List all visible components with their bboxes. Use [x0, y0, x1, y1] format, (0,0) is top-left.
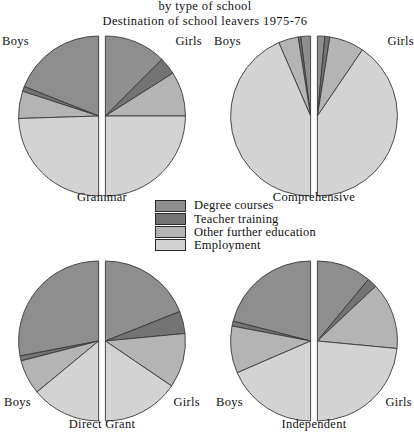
legend-swatch-degree-courses [155, 200, 186, 212]
label-independent-girls: Girls [386, 395, 413, 410]
pie-chart-comprehensive: Boys Girls Comprehensive [214, 30, 414, 206]
pie-slice [105, 116, 185, 196]
legend-swatch-other-further-education [155, 226, 186, 238]
label-grammar-boys: Boys [2, 34, 29, 49]
page-title: Destination of school leavers 1975-76 [0, 14, 410, 29]
legend-item-employment: Employment [155, 239, 305, 252]
pie-chart-direct-grant: Boys Girls Direct Grant [2, 255, 202, 431]
label-independent-boys: Boys [216, 395, 243, 410]
label-comprehensive-girls: Girls [388, 34, 414, 49]
label-direct-grant-girls: Girls [174, 395, 201, 410]
pie-chart-independent: Boys Girls Independent [214, 255, 414, 431]
legend-item-teacher-training: Teacher training [155, 212, 305, 225]
pie-slice [19, 116, 99, 196]
label-grammar-girls: Girls [176, 34, 203, 49]
pie-slice [19, 261, 99, 356]
subtitle-by-type-of-school: by type of school [0, 0, 410, 14]
label-direct-grant-boys: Boys [4, 395, 31, 410]
legend-item-other-further-education: Other further education [155, 225, 305, 238]
legend-label-other-further-education: Other further education [194, 226, 316, 239]
legend-swatch-employment [155, 239, 186, 251]
legend-swatch-teacher-training [155, 213, 186, 225]
legend-label-employment: Employment [194, 239, 261, 252]
pie-direct-grant-svg [2, 255, 202, 431]
legend: Degree courses Teacher training Other fu… [155, 199, 305, 252]
pie-independent-svg [214, 255, 414, 431]
legend-label-degree-courses: Degree courses [194, 199, 274, 212]
legend-item-degree-courses: Degree courses [155, 199, 305, 212]
label-comprehensive-boys: Boys [214, 34, 241, 49]
label-direct-grant-name: Direct Grant [2, 417, 202, 432]
pie-chart-grammar: Boys Girls Grammar [2, 30, 202, 206]
pie-grammar-svg [2, 30, 202, 206]
pie-comprehensive-svg [214, 30, 414, 206]
label-independent-name: Independent [214, 417, 414, 432]
legend-label-teacher-training: Teacher training [194, 213, 279, 226]
